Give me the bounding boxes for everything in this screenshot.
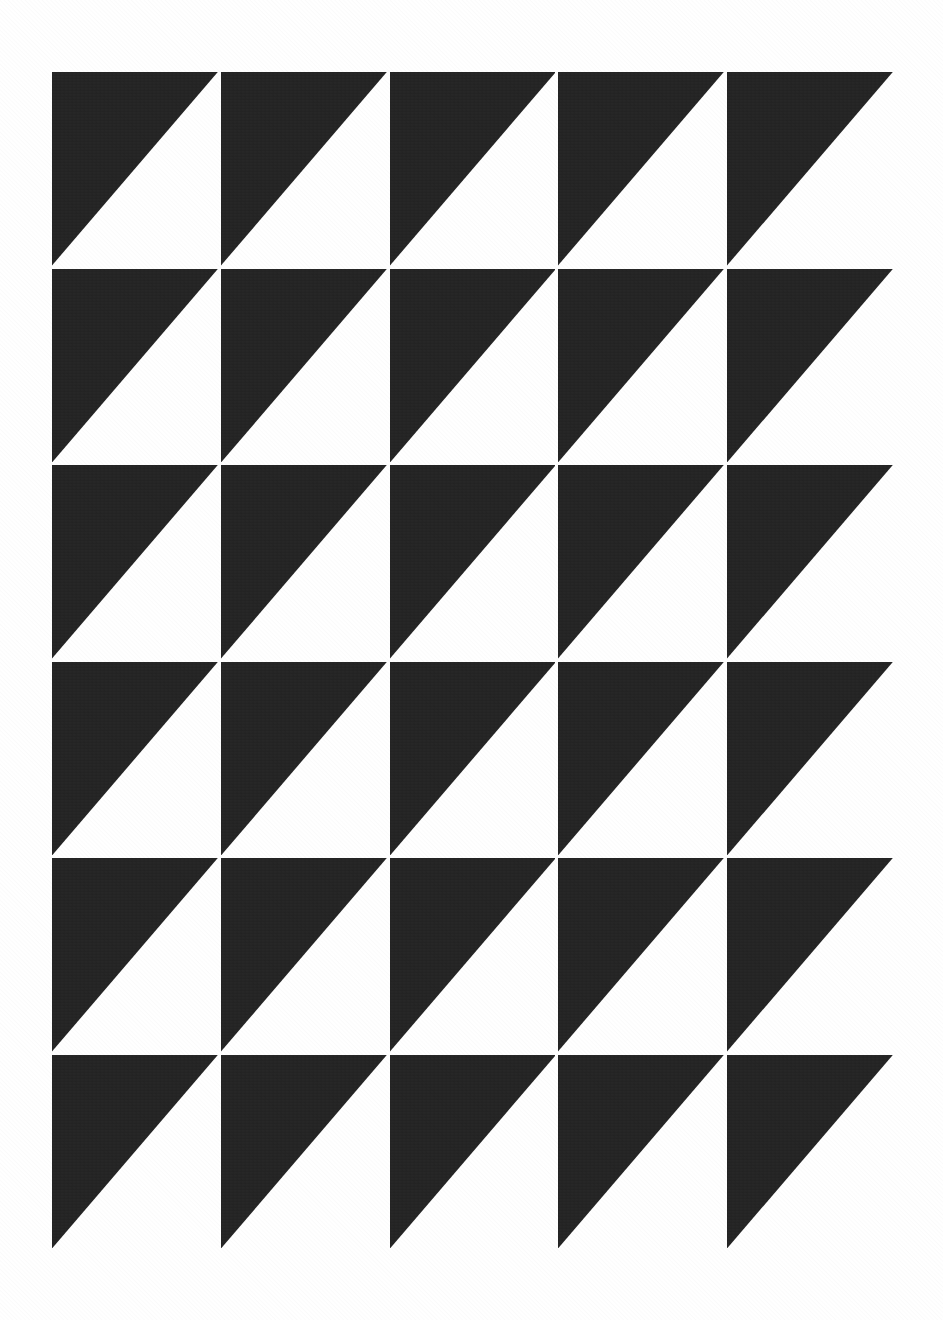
half-square-triangle-icon <box>221 1055 387 1249</box>
half-square-triangle-icon <box>390 465 556 659</box>
triangle-tile <box>221 72 387 266</box>
half-square-triangle-icon <box>727 662 893 856</box>
half-square-triangle-icon <box>727 72 893 266</box>
artwork-canvas <box>0 0 943 1320</box>
half-square-triangle-icon <box>390 269 556 463</box>
triangle-tile <box>558 858 724 1052</box>
half-square-triangle-icon <box>390 662 556 856</box>
half-square-triangle-icon <box>221 465 387 659</box>
triangle-tile <box>727 72 893 266</box>
triangle-tile <box>221 269 387 463</box>
half-square-triangle-icon <box>52 858 218 1052</box>
half-square-triangle-icon <box>558 72 724 266</box>
triangle-tile <box>52 1055 218 1249</box>
triangle-tile-grid <box>52 72 893 1248</box>
triangle-tile <box>52 662 218 856</box>
half-square-triangle-icon <box>221 269 387 463</box>
half-square-triangle-icon <box>221 858 387 1052</box>
half-square-triangle-icon <box>390 72 556 266</box>
half-square-triangle-icon <box>558 465 724 659</box>
triangle-tile <box>558 72 724 266</box>
half-square-triangle-icon <box>390 1055 556 1249</box>
triangle-tile <box>221 465 387 659</box>
half-square-triangle-icon <box>52 662 218 856</box>
half-square-triangle-icon <box>558 269 724 463</box>
triangle-tile <box>390 858 556 1052</box>
triangle-tile <box>390 662 556 856</box>
triangle-tile <box>727 1055 893 1249</box>
triangle-tile <box>390 269 556 463</box>
triangle-tile <box>221 662 387 856</box>
triangle-tile <box>52 72 218 266</box>
half-square-triangle-icon <box>727 858 893 1052</box>
triangle-tile <box>558 269 724 463</box>
half-square-triangle-icon <box>727 269 893 463</box>
half-square-triangle-icon <box>52 1055 218 1249</box>
half-square-triangle-icon <box>221 72 387 266</box>
half-square-triangle-icon <box>221 662 387 856</box>
triangle-tile <box>221 858 387 1052</box>
triangle-tile <box>727 662 893 856</box>
triangle-tile <box>558 465 724 659</box>
half-square-triangle-icon <box>727 1055 893 1249</box>
triangle-tile <box>390 72 556 266</box>
triangle-tile <box>221 1055 387 1249</box>
triangle-tile <box>558 662 724 856</box>
half-square-triangle-icon <box>52 72 218 266</box>
half-square-triangle-icon <box>390 858 556 1052</box>
triangle-tile <box>727 269 893 463</box>
triangle-tile <box>52 858 218 1052</box>
half-square-triangle-icon <box>558 1055 724 1249</box>
triangle-tile <box>727 465 893 659</box>
half-square-triangle-icon <box>558 662 724 856</box>
triangle-tile <box>52 269 218 463</box>
triangle-tile <box>390 465 556 659</box>
triangle-tile <box>727 858 893 1052</box>
half-square-triangle-icon <box>727 465 893 659</box>
triangle-tile <box>390 1055 556 1249</box>
half-square-triangle-icon <box>52 269 218 463</box>
half-square-triangle-icon <box>52 465 218 659</box>
half-square-triangle-icon <box>558 858 724 1052</box>
triangle-tile <box>558 1055 724 1249</box>
triangle-tile <box>52 465 218 659</box>
